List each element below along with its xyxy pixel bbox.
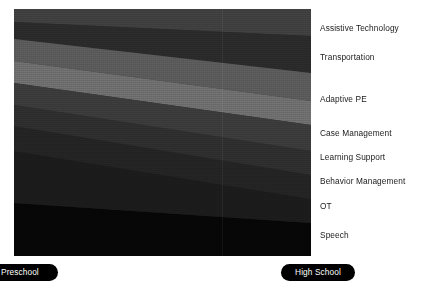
series-label-case-management: Case Management xyxy=(320,128,392,138)
axis-pill-preschool-label: Preschool xyxy=(0,267,39,277)
chart-figure: Assistive Technology Transportation Adap… xyxy=(0,0,431,289)
series-label-behavior-management: Behavior Management xyxy=(320,176,405,186)
series-label-speech: Speech xyxy=(320,230,349,240)
series-label-ot: OT xyxy=(320,201,332,211)
stacked-area-svg xyxy=(14,9,311,256)
series-label-assistive-technology: Assistive Technology xyxy=(320,23,399,33)
series-label-learning-support: Learning Support xyxy=(320,152,385,162)
axis-pill-high-school-label: High School xyxy=(295,267,341,277)
axis-pill-high-school[interactable]: High School xyxy=(281,264,355,281)
series-label-transportation: Transportation xyxy=(320,52,375,62)
axis-pill-preschool[interactable]: Preschool xyxy=(0,264,58,281)
series-label-adaptive-pe: Adaptive PE xyxy=(320,94,367,104)
stacked-area-plot[interactable] xyxy=(14,9,311,256)
